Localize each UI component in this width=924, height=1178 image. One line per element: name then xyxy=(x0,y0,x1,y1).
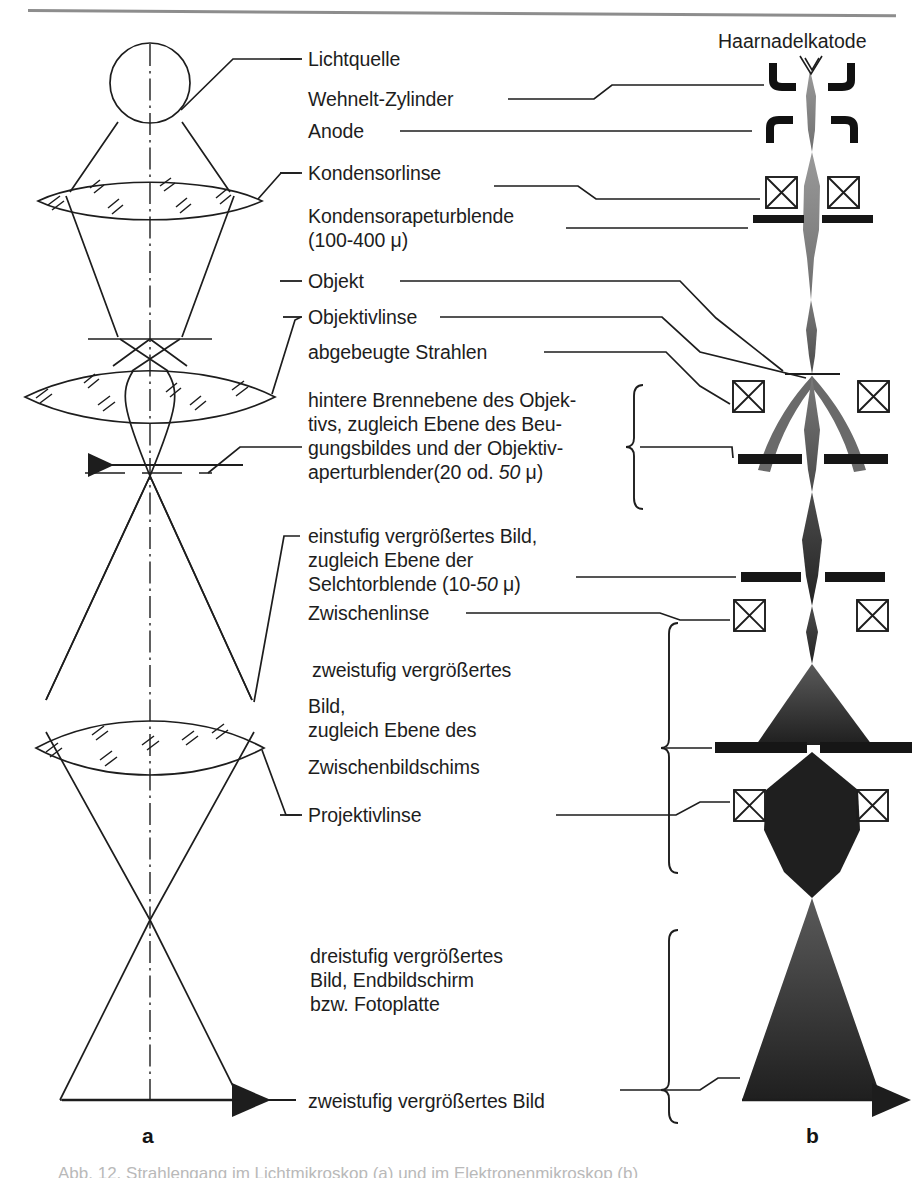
label-selektorblende-unit: μ) xyxy=(498,573,521,595)
label-wehnelt-zylinder: Wehnelt-Zylinder xyxy=(308,87,453,111)
label-brennebene-line4: aperturblender(20 od. 50 μ) xyxy=(308,460,543,484)
label-einstufig-line1: einstufig vergrößertes Bild, xyxy=(308,524,537,548)
label-zwischenlinse: Zwischenlinse xyxy=(308,601,429,625)
label-einstufig-line3: Selchtorblende (10-50 μ) xyxy=(308,572,521,596)
label-zweistufig-line1: zweistufig vergrößertes xyxy=(312,658,511,682)
label-brennebene-line2: tivs, zugleich Ebene des Beu- xyxy=(308,412,562,436)
label-zweistufig-line3: zugleich Ebene des xyxy=(308,718,476,742)
label-brennebene-line4-text: aperturblender(20 od. xyxy=(308,461,499,483)
label-kondensorlinse: Kondensorlinse xyxy=(308,161,441,185)
panel-label-b: b xyxy=(806,1124,819,1148)
label-einstufig-line2: zugleich Ebene der xyxy=(308,548,473,572)
label-lichtquelle: Lichtquelle xyxy=(308,47,400,71)
label-dreistufig-line1: dreistufig vergrößertes xyxy=(310,944,503,968)
label-haarnadelkatode: Haarnadelkatode xyxy=(718,30,867,53)
label-kondensorapertur-line2: (100-400 μ) xyxy=(308,228,408,252)
label-zweistufig-line2: Bild, xyxy=(308,694,345,718)
label-brennebene-aperture-value: 50 xyxy=(499,461,521,483)
label-objektivlinse: Objektivlinse xyxy=(308,305,417,329)
label-layer: Haarnadelkatode Lichtquelle Wehnelt-Zyli… xyxy=(0,0,924,1178)
label-zweistufig-line4: Zwischenbildschims xyxy=(308,755,480,779)
label-objekt: Objekt xyxy=(308,269,364,293)
label-selektorblende-text: Selchtorblende (10- xyxy=(308,573,476,595)
label-brennebene-line1: hintere Brennebene des Objek- xyxy=(308,388,576,412)
figure-caption: Abb. 12. Strahlengang im Lichtmikroskop … xyxy=(58,1164,878,1178)
label-brennebene-line3: gungsbildes und der Objektiv- xyxy=(308,436,563,460)
panel-label-a: a xyxy=(142,1124,154,1148)
label-kondensorapertur-line1: Kondensorapeturblende xyxy=(308,204,514,228)
label-dreistufig-line2: Bild, Endbildschirm xyxy=(310,968,474,992)
label-abgebeugte-strahlen: abgebeugte Strahlen xyxy=(308,340,487,364)
label-projektivlinse: Projektivlinse xyxy=(308,803,421,827)
label-dreistufig-line3: bzw. Fotoplatte xyxy=(310,992,440,1016)
label-anode: Anode xyxy=(308,119,364,143)
figure-root: Haarnadelkatode Lichtquelle Wehnelt-Zyli… xyxy=(0,0,924,1178)
label-zweistufig-bottom: zweistufig vergrößertes Bild xyxy=(308,1089,545,1113)
label-selektorblende-value: 50 xyxy=(476,573,498,595)
label-brennebene-unit: μ) xyxy=(520,461,543,483)
